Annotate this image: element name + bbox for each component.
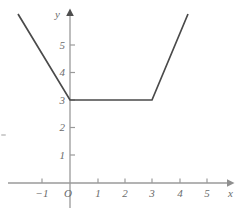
y-tick-label-1: 1 — [53, 150, 65, 161]
y-axis — [66, 9, 75, 209]
plot-canvas — [0, 0, 239, 209]
scan-artifact-speck — [1, 134, 6, 136]
y-tick-label-4: 4 — [53, 67, 65, 78]
x-tick-label--1: −1 — [32, 188, 52, 199]
x-tick-label-4: 4 — [173, 188, 187, 199]
x-tick-label-3: 3 — [145, 188, 159, 199]
x-axis-arrow-icon — [227, 179, 235, 187]
y-axis-arrow-icon — [66, 9, 74, 17]
y-axis-label: y — [55, 9, 60, 20]
y-tick-label-3: 3 — [53, 95, 65, 106]
x-axis — [8, 179, 235, 187]
x-tick-label-1: 1 — [91, 188, 105, 199]
x-tick-label-2: 2 — [118, 188, 132, 199]
y-tick-label-2: 2 — [53, 122, 65, 133]
origin-label: O — [61, 188, 75, 199]
graph-figure: −1 O 1 2 3 4 5 1 2 3 4 5 y x — [0, 0, 239, 209]
function-curve — [18, 14, 188, 100]
x-tick-label-5: 5 — [200, 188, 214, 199]
y-tick-label-5: 5 — [53, 40, 65, 51]
x-axis-label: x — [228, 188, 233, 199]
